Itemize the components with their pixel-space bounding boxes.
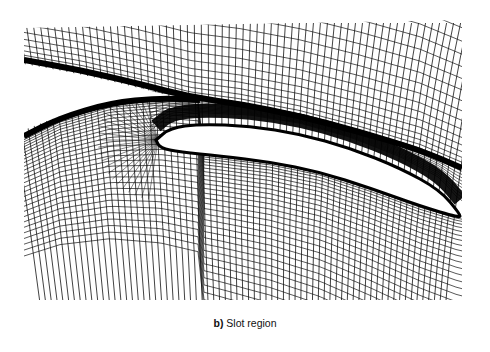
computational-mesh [0, 0, 490, 305]
figure-caption: b) Slot region [0, 317, 490, 329]
caption-text: Slot region [226, 317, 276, 329]
caption-label: b) [213, 317, 223, 329]
